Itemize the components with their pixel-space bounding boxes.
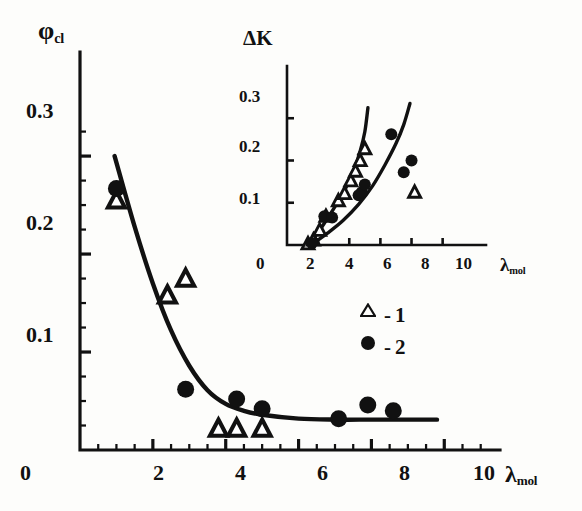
main-x-tick-8: 8 <box>399 462 410 484</box>
inset-x-tick-10: 10 <box>455 255 472 272</box>
main-point-2 <box>385 402 402 419</box>
main-x-axis-subscript: mol <box>517 473 537 488</box>
main-point-2 <box>330 410 347 427</box>
main-point-2 <box>228 391 245 408</box>
main-x-tick-4: 4 <box>235 462 246 484</box>
main-x-axis-title: λmol <box>505 462 537 488</box>
main-curve-fit <box>115 156 437 420</box>
inset-x-tick-0: 0 <box>256 255 265 272</box>
inset-point-1 <box>339 187 351 198</box>
inset-x-tick-6: 6 <box>383 255 392 272</box>
inset-x-tick-8: 8 <box>421 255 430 272</box>
main-point-1 <box>210 420 227 436</box>
inset-point-2 <box>385 128 397 140</box>
figure-root: φcl λmol 0.3 0.2 0.1 0 2 4 6 8 10 - 1 - … <box>0 0 582 511</box>
inset-y-tick-0.1: 0.1 <box>239 190 260 207</box>
main-y-tick-0.3: 0.3 <box>26 100 54 122</box>
legend-label-1: 1 <box>395 303 406 328</box>
inset-y-tick-0.2: 0.2 <box>239 138 260 155</box>
inset-x-axis-subscript: mol <box>509 265 525 276</box>
main-point-2 <box>254 400 271 417</box>
main-point-2 <box>359 396 376 413</box>
inset-x-axis-symbol: λ <box>500 254 509 275</box>
inset-y-tick-0.3: 0.3 <box>239 88 260 105</box>
main-y-tick-0.2: 0.2 <box>26 212 54 234</box>
inset-point-2 <box>359 179 371 191</box>
main-point-1 <box>177 270 194 286</box>
legend-entry-2: - 2 <box>360 335 406 360</box>
legend-entry-1: - 1 <box>360 303 406 328</box>
inset-y-axis-title: ΔK <box>243 28 273 49</box>
inset-x-tick-2: 2 <box>306 255 315 272</box>
main-point-1 <box>228 420 245 436</box>
inset-point-1 <box>409 186 421 197</box>
main-point-1 <box>159 286 176 302</box>
main-y-axis-subscript: cl <box>54 30 64 46</box>
legend-label-2: 2 <box>395 335 406 360</box>
inset-point-2 <box>406 154 418 166</box>
main-point-2 <box>108 180 125 197</box>
main-y-axis-symbol: φ <box>38 16 54 45</box>
main-point-1 <box>254 420 271 436</box>
main-y-tick-0.1: 0.1 <box>26 324 54 346</box>
inset-point-2 <box>398 166 410 178</box>
filled-circle-glyph <box>360 335 376 351</box>
main-x-axis-symbol: λ <box>505 461 517 487</box>
inset-point-2 <box>326 212 338 224</box>
inset-axis-lines <box>287 66 486 245</box>
inset-x-tick-4: 4 <box>345 255 354 272</box>
inset-x-axis-title: λmol <box>500 255 526 276</box>
plot-canvas <box>0 0 582 511</box>
main-x-tick-6: 6 <box>317 462 328 484</box>
inset-point-1 <box>354 154 366 165</box>
main-x-tick-2: 2 <box>153 462 164 484</box>
main-x-tick-10: 10 <box>473 462 495 484</box>
main-x-tick-0: 0 <box>20 462 31 484</box>
legend-dash-1: - <box>384 303 391 328</box>
open-triangle-glyph <box>360 303 376 317</box>
inset-point-2 <box>306 237 318 249</box>
legend-dash-2: - <box>384 335 391 360</box>
main-y-axis-title: φcl <box>38 18 64 45</box>
main-point-2 <box>177 381 194 398</box>
